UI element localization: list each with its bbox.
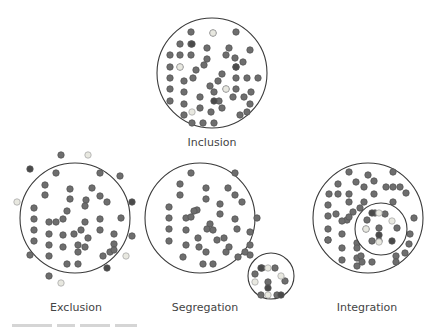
dot <box>407 231 413 237</box>
dot-outside-light <box>123 253 129 259</box>
dot-light <box>363 226 369 232</box>
dot <box>177 52 183 58</box>
dot <box>235 254 241 260</box>
dot <box>64 208 70 214</box>
dot <box>53 170 59 176</box>
dot <box>203 249 209 255</box>
dot <box>204 226 210 232</box>
dot-dark <box>258 265 264 271</box>
dot-outside-dark <box>104 265 110 271</box>
dot <box>223 249 229 255</box>
dot <box>85 235 91 241</box>
dot <box>247 242 253 248</box>
dot <box>335 191 341 197</box>
dot <box>82 203 88 209</box>
dot <box>265 279 271 285</box>
dot <box>166 238 172 244</box>
dot-light <box>177 64 183 70</box>
dot <box>339 231 345 237</box>
dot <box>46 231 52 237</box>
dot <box>100 253 106 259</box>
dot <box>42 192 48 198</box>
dot-outside <box>46 273 52 279</box>
dot-dark <box>233 64 239 70</box>
dot <box>196 244 202 250</box>
dot <box>210 261 216 267</box>
dot <box>31 216 37 222</box>
dot <box>326 191 332 197</box>
dot <box>247 229 253 235</box>
dot <box>204 56 210 62</box>
dot <box>339 257 345 263</box>
dot <box>403 190 409 196</box>
dot <box>239 199 245 205</box>
dot <box>118 215 124 221</box>
dot-light <box>265 292 271 298</box>
dot <box>214 237 220 243</box>
dot-outside <box>129 233 135 239</box>
label-exclusion: Exclusion <box>16 301 136 314</box>
dot <box>390 169 396 175</box>
dot <box>60 232 66 238</box>
dot <box>64 261 70 267</box>
dot-outside <box>27 252 33 258</box>
dot <box>31 205 37 211</box>
dot <box>53 219 59 225</box>
dot <box>406 241 412 247</box>
dot <box>203 185 209 191</box>
cropped-caption <box>12 321 192 329</box>
dot <box>325 237 331 243</box>
dot <box>211 89 217 95</box>
dot <box>83 197 89 203</box>
dot-outside-light <box>58 280 64 286</box>
dot <box>219 71 225 77</box>
dot-light <box>252 279 258 285</box>
dot <box>346 191 352 197</box>
dot <box>166 204 172 210</box>
dot-light <box>389 218 395 224</box>
dot <box>234 226 240 232</box>
label-segregation: Segregation <box>145 301 265 314</box>
dot <box>233 86 239 92</box>
dot <box>200 261 206 267</box>
dot <box>200 120 206 126</box>
label-inclusion: Inclusion <box>152 136 272 149</box>
dot <box>397 184 403 190</box>
dot <box>97 193 103 199</box>
dot <box>177 181 183 187</box>
dot <box>31 227 37 233</box>
dot <box>223 52 229 58</box>
dot <box>67 196 73 202</box>
dot <box>60 216 66 222</box>
dot <box>361 199 367 205</box>
dot <box>244 109 250 115</box>
dot <box>272 265 278 271</box>
dot-outside-dark <box>27 166 33 172</box>
dot <box>215 78 221 84</box>
dot <box>167 64 173 70</box>
dot <box>167 86 173 92</box>
dot <box>204 45 210 51</box>
dot <box>226 45 232 51</box>
dot <box>217 211 223 217</box>
dot <box>167 98 173 104</box>
dot <box>237 112 243 118</box>
label-integration: Integration <box>307 301 427 314</box>
dot-dark <box>189 41 195 47</box>
dot <box>188 170 194 176</box>
dot <box>75 249 81 255</box>
dot <box>325 226 331 232</box>
dot <box>177 192 183 198</box>
dot <box>97 170 103 176</box>
dot <box>359 259 365 265</box>
dot-light <box>376 210 382 216</box>
dot <box>111 247 117 253</box>
dot <box>42 182 48 188</box>
dot <box>232 170 238 176</box>
dot <box>111 231 117 237</box>
dot <box>211 120 217 126</box>
dot <box>189 120 195 126</box>
dot <box>346 199 352 205</box>
dot <box>358 253 364 259</box>
dot <box>402 250 408 256</box>
